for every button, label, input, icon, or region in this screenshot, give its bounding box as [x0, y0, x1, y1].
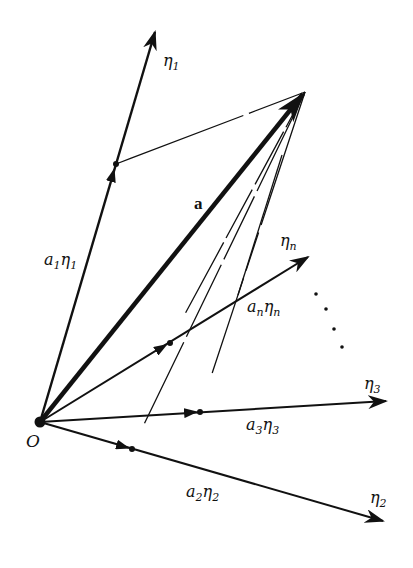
label-a2eta2: a2η2 — [186, 482, 219, 504]
label-aneta_n: anηn — [247, 297, 280, 319]
a1eta1-arrowhead — [108, 170, 114, 192]
label-a3eta3: a3η3 — [246, 415, 279, 437]
aneta_n-point — [167, 340, 173, 346]
eta1-vector — [40, 32, 155, 422]
label-eta1: η1 — [163, 51, 180, 73]
dashed-a-to-a2eta2 — [132, 92, 305, 449]
label-eta2: η2 — [370, 488, 387, 510]
basis-vectors — [40, 32, 386, 521]
eta2-vector — [40, 422, 383, 521]
label-a1eta1: a1η1 — [44, 250, 77, 272]
dashed-a-to-aneta_n — [172, 92, 305, 338]
label-eta3: η3 — [364, 374, 381, 396]
label-etan: ηn — [280, 231, 297, 253]
construction-lines — [116, 92, 305, 449]
a2eta2-point — [129, 446, 135, 452]
label-a: a — [194, 194, 203, 213]
a3eta3-point — [197, 409, 203, 415]
aneta_n-arrowhead — [148, 345, 166, 356]
origin-point — [35, 417, 46, 428]
label-O: O — [26, 431, 40, 451]
vector-decomposition-diagram: O a η1 ηn η3 η2 a1η1 anηn a3η3 a2η2 — [0, 0, 413, 568]
ellipsis-dots — [314, 292, 344, 349]
a2eta2-arrowhead — [108, 442, 128, 448]
eta3-vector — [40, 401, 386, 422]
